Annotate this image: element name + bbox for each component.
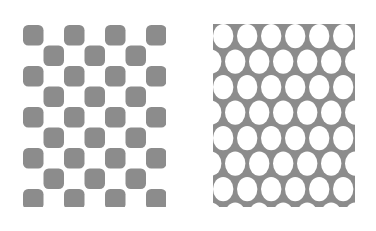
checkerboard-tile bbox=[64, 25, 85, 46]
checkerboard-tile bbox=[85, 46, 106, 67]
checkerboard-tile bbox=[64, 66, 85, 87]
checkerboard-tile bbox=[23, 107, 44, 128]
checkerboard-tile bbox=[105, 66, 126, 87]
checkerboard-tile bbox=[105, 148, 126, 169]
checkerboard-tile bbox=[44, 46, 65, 67]
checkerboard-tile bbox=[44, 87, 65, 108]
checkerboard-tile bbox=[126, 128, 147, 149]
checkerboard-tile bbox=[126, 46, 147, 67]
checkerboard-tile bbox=[146, 148, 166, 169]
checkerboard-tile bbox=[146, 107, 166, 128]
checkerboard-tile bbox=[23, 148, 44, 169]
panel-ellipse-grid bbox=[213, 24, 355, 207]
checkerboard-tile bbox=[64, 107, 85, 128]
checkerboard-tile bbox=[44, 128, 65, 149]
checkerboard-tile bbox=[85, 87, 106, 108]
checkerboard-tile bbox=[44, 169, 65, 190]
checkerboard-tile bbox=[85, 128, 106, 149]
figure-root bbox=[0, 0, 376, 231]
checkerboard-tile bbox=[105, 189, 126, 207]
checkerboard-tile bbox=[146, 189, 166, 207]
checkerboard-tile bbox=[23, 25, 44, 46]
checkerboard-tile bbox=[23, 66, 44, 87]
checkerboard-tile bbox=[126, 169, 147, 190]
checkerboard-tile bbox=[146, 66, 166, 87]
ellipse-grid-pattern-graphic bbox=[213, 24, 355, 207]
checkerboard-tile bbox=[126, 87, 147, 108]
checkerboard-tile bbox=[146, 25, 166, 46]
checkerboard-tile bbox=[105, 107, 126, 128]
checkerboard-tile bbox=[64, 189, 85, 207]
checkerboard-tile bbox=[23, 189, 44, 207]
panel-checkerboard bbox=[23, 25, 166, 207]
ellipse-grid-field bbox=[213, 24, 355, 207]
checkerboard-pattern-graphic bbox=[23, 25, 166, 207]
checkerboard-tile bbox=[105, 25, 126, 46]
checkerboard-tile bbox=[85, 169, 106, 190]
checkerboard-tile bbox=[64, 148, 85, 169]
